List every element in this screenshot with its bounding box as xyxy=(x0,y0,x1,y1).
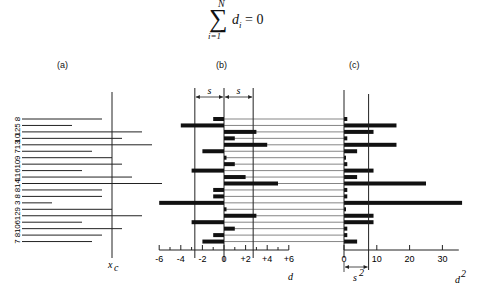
deviation-bar xyxy=(224,214,256,218)
s2-label-sup: 2 xyxy=(359,267,364,278)
row-label: 3 xyxy=(13,200,22,205)
s-label: s xyxy=(237,85,241,96)
deviation-bar xyxy=(213,188,224,192)
deviation-bar xyxy=(202,240,224,244)
deviation-bar xyxy=(213,233,224,237)
row-label: 10 xyxy=(13,159,22,168)
row-label: 8 xyxy=(13,187,22,192)
xc-label: x xyxy=(107,259,113,270)
b-tick-label: +2 xyxy=(240,254,250,264)
deviation-bar xyxy=(224,162,235,166)
row-label: 9 xyxy=(13,155,22,160)
c-tick-label: 20 xyxy=(405,254,415,264)
squared-deviation-bar xyxy=(344,149,357,153)
row-label: 8 xyxy=(13,194,22,199)
c-axis-label-sup: 2 xyxy=(461,268,466,279)
deviation-bar xyxy=(224,130,256,134)
b-tick-label: -2 xyxy=(198,254,206,264)
deviation-bar xyxy=(224,156,227,160)
deviation-bar xyxy=(224,207,227,211)
b-tick-label: 0 xyxy=(221,254,226,264)
row-label: 5 xyxy=(13,123,22,128)
row-label: 7 xyxy=(13,239,22,244)
s-label: s xyxy=(207,85,211,96)
deviation-bar xyxy=(192,220,224,224)
squared-deviation-bar xyxy=(344,143,396,147)
row-label: 12 xyxy=(13,211,22,220)
b-tick-label: +4 xyxy=(262,254,272,264)
row-label: 10 xyxy=(13,224,22,233)
figure-canvas: 8512101379106111488391261087xcss-6-4-20+… xyxy=(0,0,478,293)
xc-label-sub: c xyxy=(114,262,119,273)
row-label: 6 xyxy=(13,219,22,224)
squared-deviation-bar xyxy=(344,175,357,179)
row-label: 14 xyxy=(13,179,22,188)
row-label: 9 xyxy=(13,207,22,212)
row-label: 8 xyxy=(13,116,22,121)
b-axis-label: d xyxy=(288,271,294,282)
deviation-bar xyxy=(224,227,235,231)
squared-deviation-bar xyxy=(344,240,357,244)
squared-deviation-bar xyxy=(344,123,396,127)
squared-deviation-bar xyxy=(344,182,426,186)
deviation-bar xyxy=(181,123,224,127)
deviation-bar xyxy=(224,136,235,140)
deviation-bar xyxy=(213,194,224,198)
squared-deviation-bar xyxy=(344,201,462,205)
b-tick-label: -4 xyxy=(177,254,185,264)
b-tick-label: -6 xyxy=(155,254,163,264)
deviation-bar xyxy=(202,149,224,153)
row-label: 6 xyxy=(13,168,22,173)
deviation-bar xyxy=(224,143,267,147)
row-label: 13 xyxy=(13,140,22,149)
deviation-bar xyxy=(213,117,224,121)
s2-label: s xyxy=(353,272,357,283)
deviation-bar xyxy=(224,182,278,186)
deviation-bar xyxy=(224,175,246,179)
row-label: 7 xyxy=(13,148,22,153)
c-tick-label: 10 xyxy=(372,254,382,264)
c-tick-label: 30 xyxy=(437,254,447,264)
deviation-bar xyxy=(192,169,224,173)
b-tick-label: +6 xyxy=(284,254,294,264)
deviation-bar xyxy=(159,201,224,205)
row-label: 8 xyxy=(13,232,22,237)
